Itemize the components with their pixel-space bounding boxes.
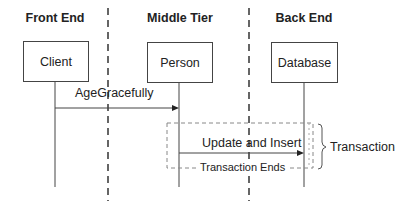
arrowhead-icon xyxy=(297,150,304,156)
tier-header-front-end: Front End xyxy=(25,11,84,25)
brace-icon xyxy=(318,124,326,169)
message-label-agegracefully: AgeGracefully xyxy=(75,86,154,100)
transaction-label: Transaction xyxy=(330,140,395,154)
tier-header-middle-tier: Middle Tier xyxy=(147,11,213,25)
participant-client: Client xyxy=(23,41,89,82)
participant-label: Database xyxy=(278,56,332,70)
arrowhead-icon xyxy=(172,105,179,111)
participant-label: Client xyxy=(40,55,72,69)
message-label-update-insert: Update and Insert xyxy=(202,136,301,150)
tier-header-back-end: Back End xyxy=(276,11,333,25)
participant-label: Person xyxy=(160,56,200,70)
participant-database: Database xyxy=(271,42,338,83)
participant-person: Person xyxy=(147,42,213,83)
transaction-ends-label: Transaction Ends xyxy=(198,161,287,173)
